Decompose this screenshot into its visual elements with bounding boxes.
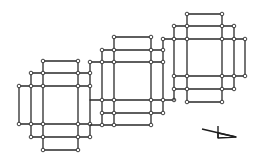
joint-node bbox=[185, 37, 189, 41]
joint-node bbox=[29, 84, 33, 88]
joint-node bbox=[88, 84, 92, 88]
joint-node bbox=[220, 74, 224, 78]
joint-node bbox=[88, 60, 92, 64]
joint-node bbox=[100, 123, 104, 127]
joint-node bbox=[172, 74, 176, 78]
joint-node bbox=[88, 71, 92, 75]
joint-node bbox=[100, 48, 104, 52]
joint-node bbox=[100, 111, 104, 115]
joint-node bbox=[41, 59, 45, 63]
joint-node bbox=[232, 74, 236, 78]
joint-node bbox=[185, 74, 189, 78]
joint-node bbox=[161, 37, 165, 41]
joint-node bbox=[232, 24, 236, 28]
joint-node bbox=[76, 135, 80, 139]
joint-node bbox=[161, 48, 165, 52]
joint-node bbox=[161, 98, 165, 102]
diagram-canvas bbox=[0, 0, 261, 160]
joint-node bbox=[172, 24, 176, 28]
joint-node bbox=[112, 48, 116, 52]
joint-node bbox=[112, 123, 116, 127]
joint-node bbox=[76, 71, 80, 75]
joint-node bbox=[41, 135, 45, 139]
joint-node bbox=[243, 74, 247, 78]
joint-node bbox=[76, 122, 80, 126]
joint-node bbox=[29, 71, 33, 75]
joint-node bbox=[41, 122, 45, 126]
joint-node bbox=[185, 100, 189, 104]
joint-node bbox=[149, 111, 153, 115]
joint-node bbox=[220, 37, 224, 41]
joint-node bbox=[76, 84, 80, 88]
joint-node bbox=[232, 37, 236, 41]
joint-node bbox=[185, 12, 189, 16]
right-grid bbox=[161, 12, 247, 104]
joint-node bbox=[41, 148, 45, 152]
joint-node bbox=[29, 135, 33, 139]
joint-node bbox=[149, 35, 153, 39]
joint-node bbox=[29, 122, 33, 126]
joint-node bbox=[220, 100, 224, 104]
joint-node bbox=[149, 123, 153, 127]
joint-node bbox=[76, 148, 80, 152]
joint-node bbox=[112, 35, 116, 39]
joint-node bbox=[100, 98, 104, 102]
joint-node bbox=[41, 71, 45, 75]
joint-node bbox=[41, 84, 45, 88]
joint-node bbox=[17, 84, 21, 88]
joint-node bbox=[76, 59, 80, 63]
joint-node bbox=[220, 87, 224, 91]
joint-node bbox=[149, 60, 153, 64]
joint-node bbox=[161, 111, 165, 115]
joint-node bbox=[172, 87, 176, 91]
joint-node bbox=[100, 60, 104, 64]
joint-node bbox=[220, 12, 224, 16]
joint-node bbox=[112, 98, 116, 102]
joint-node bbox=[149, 98, 153, 102]
joint-node bbox=[232, 87, 236, 91]
arrow-head bbox=[218, 133, 236, 138]
joint-node bbox=[112, 111, 116, 115]
left-grid bbox=[17, 59, 92, 152]
joint-node bbox=[220, 24, 224, 28]
joint-node bbox=[88, 135, 92, 139]
joint-node bbox=[17, 122, 21, 126]
joint-node bbox=[112, 60, 116, 64]
joint-node bbox=[149, 48, 153, 52]
joint-node bbox=[185, 24, 189, 28]
joint-node bbox=[185, 87, 189, 91]
joint-node bbox=[161, 60, 165, 64]
orientation-arrow-icon bbox=[202, 126, 236, 138]
middle-grid bbox=[88, 35, 176, 127]
joint-node bbox=[243, 37, 247, 41]
joint-node bbox=[172, 37, 176, 41]
